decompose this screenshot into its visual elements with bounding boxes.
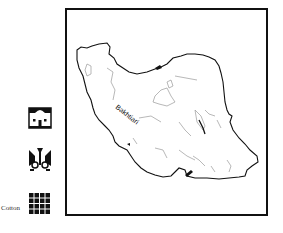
legend-label-cotton: Cotton — [1, 204, 20, 212]
coastal-marker — [127, 143, 130, 146]
lake-mark — [199, 120, 205, 134]
iran-map: Bakhtiari — [67, 10, 266, 214]
rivers — [85, 64, 231, 172]
country-outline — [77, 43, 258, 179]
grid-weave-icon — [29, 193, 51, 214]
map-frame: Bakhtiari — [65, 8, 268, 216]
map-label-bakhtiari: Bakhtiari — [114, 103, 140, 126]
caspian-coast-mark — [155, 65, 162, 70]
tribal-motif-icon — [28, 147, 52, 171]
house-icon — [28, 107, 52, 129]
